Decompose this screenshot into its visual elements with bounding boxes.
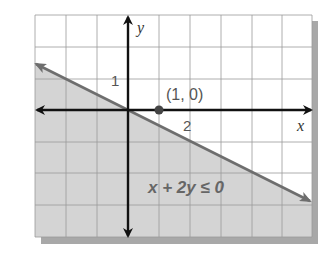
- point-label: (1, 0): [166, 86, 203, 103]
- test-point: [155, 106, 164, 115]
- x-tick-label-2: 2: [183, 117, 191, 134]
- inequality-graph: y x 1 2 (1, 0) x + 2y ≤ 0: [0, 0, 335, 253]
- inequality-label: x + 2y ≤ 0: [147, 178, 225, 197]
- y-axis-label: y: [135, 19, 145, 37]
- y-tick-label-1: 1: [111, 72, 119, 89]
- x-axis-label: x: [296, 117, 304, 134]
